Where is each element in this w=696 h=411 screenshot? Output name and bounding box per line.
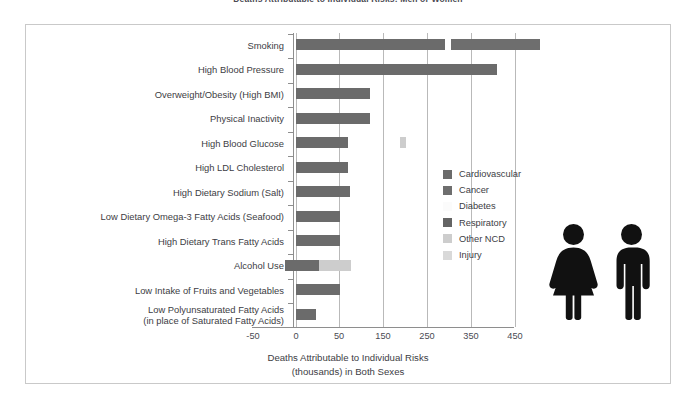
legend-item[interactable]: Respiratory (443, 215, 521, 231)
bar-segment[interactable] (296, 309, 316, 320)
bar-segment[interactable] (319, 260, 351, 271)
y-axis-category-label: High LDL Cholesterol (195, 162, 284, 173)
y-axis-category-label: Overweight/Obesity (High BMI) (155, 89, 284, 100)
y-axis-category-label: Low Dietary Omega-3 Fatty Acids (Seafood… (101, 211, 284, 222)
bar-segment[interactable] (296, 284, 340, 295)
x-axis-title: Deaths Attributable to Individual Risks … (168, 351, 528, 378)
x-tick-label: 150 (363, 331, 403, 341)
x-tick-label: 250 (407, 331, 447, 341)
bar-segment[interactable] (285, 260, 319, 271)
y-axis-category-label: High Blood Glucose (201, 138, 284, 149)
legend-swatch-icon (443, 218, 452, 227)
y-axis-category-label: Physical Inactivity (210, 113, 284, 124)
x-tick-label: 350 (451, 331, 491, 341)
x-tick-label: 0 (276, 331, 316, 341)
legend-item[interactable]: Diabetes (443, 198, 521, 214)
male-figure-icon (617, 224, 650, 320)
legend-label: Injury (459, 250, 482, 260)
y-axis-category-label: High Blood Pressure (198, 64, 284, 75)
x-axis-title-line2: (thousands) in Both Sexes (168, 365, 528, 379)
legend-swatch-icon (443, 202, 452, 211)
figure-title: Deaths Attributable to Individual Risks:… (0, 0, 696, 2)
legend-item[interactable]: Other NCD (443, 231, 521, 247)
legend-item[interactable]: Cardiovascular (443, 166, 521, 182)
pictograms-svg (548, 222, 658, 320)
chart-panel (25, 24, 671, 384)
bar-segment[interactable] (451, 39, 540, 50)
bar-segment[interactable] (296, 113, 370, 124)
bar-segment[interactable] (296, 235, 340, 246)
legend-swatch-icon (443, 186, 452, 195)
legend-label: Cardiovascular (459, 169, 521, 179)
legend-swatch-icon (443, 170, 452, 179)
pictogram-group (548, 222, 658, 320)
legend-label: Cancer (459, 185, 489, 195)
x-tick-label: -50 (233, 331, 273, 341)
x-tick-label: 450 (495, 331, 535, 341)
bar-segment[interactable] (296, 186, 350, 197)
bar-segment[interactable] (296, 64, 497, 75)
legend-item[interactable]: Cancer (443, 182, 521, 198)
bar-segment[interactable] (296, 137, 348, 148)
legend-label: Respiratory (459, 218, 507, 228)
female-figure-icon (549, 224, 597, 320)
bar-segment[interactable] (296, 39, 445, 50)
y-axis-category-label: Alcohol Use (234, 260, 284, 271)
legend: CardiovascularCancerDiabetesRespiratoryO… (443, 166, 521, 263)
bar-segment[interactable] (296, 88, 370, 99)
legend-label: Diabetes (459, 201, 496, 211)
bar-segment[interactable] (400, 137, 406, 148)
x-tick-label: 50 (319, 331, 359, 341)
y-axis-category-label: High Dietary Trans Fatty Acids (158, 236, 284, 247)
y-axis-category-label: Low Intake of Fruits and Vegetables (135, 285, 284, 296)
legend-swatch-icon (443, 234, 452, 243)
y-axis-category-label: High Dietary Sodium (Salt) (173, 187, 284, 198)
y-axis-category-label: Low Polyunsaturated Fatty Acids(in place… (64, 304, 284, 327)
legend-item[interactable]: Injury (443, 247, 521, 263)
y-axis-category-label: Smoking (248, 40, 284, 51)
legend-swatch-icon (443, 251, 452, 260)
bar-segment[interactable] (296, 211, 340, 222)
legend-label: Other NCD (459, 234, 505, 244)
bar-segment[interactable] (296, 162, 348, 173)
x-axis-title-line1: Deaths Attributable to Individual Risks (168, 351, 528, 365)
